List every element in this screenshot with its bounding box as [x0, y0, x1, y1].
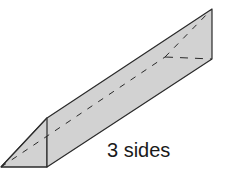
- sides-label: 3 sides: [107, 139, 170, 162]
